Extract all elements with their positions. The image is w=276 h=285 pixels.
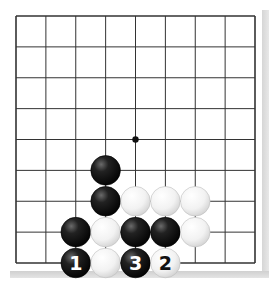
white-stone: [121, 186, 151, 216]
white-stone: [180, 217, 210, 247]
black-stone-move-1: 1: [61, 248, 91, 278]
black-stone-icon: [91, 186, 121, 216]
black-stone-move-3: 3: [121, 248, 151, 278]
black-stone: [91, 186, 121, 216]
white-stone-icon: [151, 186, 181, 216]
white-stone-icon: [180, 217, 210, 247]
black-stone-icon: [61, 217, 91, 247]
white-stone-move-2: 2: [151, 248, 181, 278]
move-number-label: 3: [129, 252, 142, 274]
white-stone-icon: [121, 186, 151, 216]
black-stone: [151, 217, 181, 247]
hoshi-point-icon: [132, 136, 138, 142]
black-stone: [121, 217, 151, 247]
white-stone: [180, 186, 210, 216]
white-stone: [91, 217, 121, 247]
white-stone-icon: [180, 186, 210, 216]
hoshi-points: [132, 136, 138, 142]
black-stone-icon: [121, 217, 151, 247]
black-stone-icon: [151, 217, 181, 247]
move-number-label: 2: [159, 252, 172, 274]
white-stone-icon: [91, 217, 121, 247]
white-stone: [151, 186, 181, 216]
black-stone: [91, 156, 121, 186]
black-stone: [61, 217, 91, 247]
white-stone-icon: [91, 248, 121, 278]
go-board: 132: [0, 0, 276, 285]
white-stone: [91, 248, 121, 278]
black-stone-icon: [91, 156, 121, 186]
go-board-diagram: 132: [0, 0, 276, 285]
move-number-label: 1: [69, 252, 82, 274]
